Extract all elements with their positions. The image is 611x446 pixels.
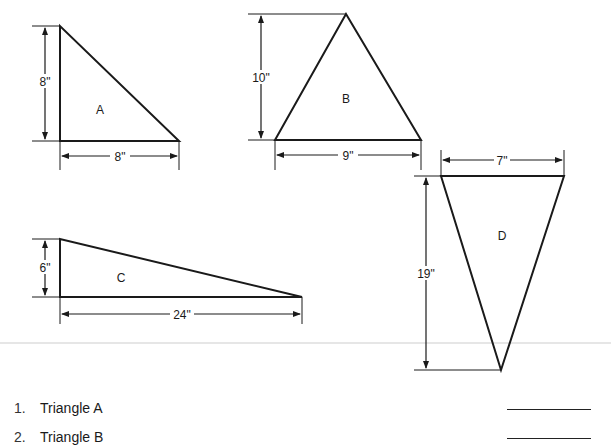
triangle-d: 7" 19" D (414, 150, 564, 370)
triangle-figures: 8" 8" A 10" 9" B 6" 24" C (0, 0, 611, 446)
triangle-a: 8" 8" A (32, 26, 179, 170)
triangle-c: 6" 24" C (32, 239, 302, 324)
triangle-c-label: C (117, 271, 126, 285)
triangle-b-base-label: 9" (343, 149, 354, 163)
triangle-a-label: A (96, 103, 104, 117)
answer-blank-1[interactable] (507, 409, 591, 410)
answer-blank-2[interactable] (507, 438, 591, 439)
question-text: Triangle A (40, 400, 103, 416)
triangle-b-height-label: 10" (252, 71, 270, 85)
triangle-b: 10" 9" B (248, 14, 421, 170)
triangle-a-height-label: 8" (40, 75, 51, 89)
question-number: 2. (14, 429, 28, 445)
triangle-a-base-label: 8" (115, 150, 126, 164)
triangle-b-label: B (342, 92, 350, 106)
triangle-d-height-label: 19" (417, 267, 435, 281)
question-2: 2. Triangle B (14, 429, 103, 445)
triangle-c-height-label: 6" (40, 261, 51, 275)
question-number: 1. (14, 400, 28, 416)
question-text: Triangle B (40, 429, 103, 445)
triangle-c-base-label: 24" (173, 308, 191, 322)
question-1: 1. Triangle A (14, 400, 103, 416)
triangle-d-label: D (498, 229, 507, 243)
triangle-d-base-label: 7" (497, 154, 508, 168)
